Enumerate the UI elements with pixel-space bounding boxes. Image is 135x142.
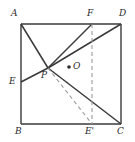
point-O-dot xyxy=(67,65,71,69)
vertex-label-P: P xyxy=(41,71,47,80)
vertex-label-O: O xyxy=(73,62,80,71)
vertex-label-E-prime: E' xyxy=(85,127,94,136)
vertex-label-B: B xyxy=(15,127,22,136)
figure-canvas xyxy=(0,0,135,142)
construction-lines xyxy=(21,24,121,124)
segment-A-P xyxy=(21,24,48,68)
segment-P-C xyxy=(48,68,121,124)
vertex-label-D: D xyxy=(119,9,126,18)
vertex-label-A: A xyxy=(11,9,18,18)
vertex-label-F: F xyxy=(87,9,93,18)
geometry-figure: A D F B E' C E P O xyxy=(0,0,135,142)
vertex-label-E: E xyxy=(9,77,16,86)
vertex-label-C: C xyxy=(117,127,124,136)
